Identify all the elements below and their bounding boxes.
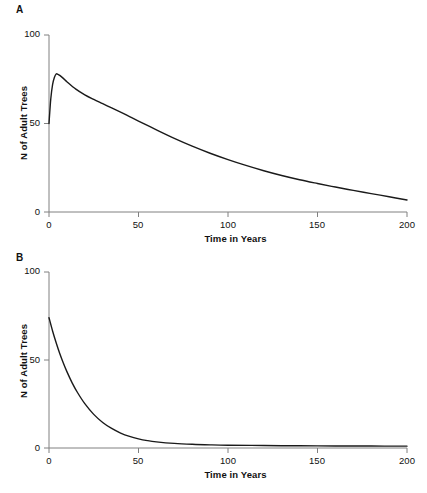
panel-b-xlabel-150: 150 — [302, 455, 332, 466]
panel-a-ylabel-0: 0 — [14, 206, 40, 217]
panel-a-xlabel-150: 150 — [302, 219, 332, 230]
panel-b-xlabel-0: 0 — [34, 455, 64, 466]
panel-b-xlabel-200: 200 — [392, 455, 422, 466]
panel-a-xlabel-0: 0 — [34, 219, 64, 230]
panel-a-data-curve — [49, 74, 407, 200]
panel-a-y-axis-title: N of Adult Trees — [18, 86, 29, 160]
panel-a-xlabel-50: 50 — [123, 219, 153, 230]
panel-b-ylabel-100: 100 — [14, 265, 40, 276]
panel-a-plot — [0, 0, 427, 248]
figure-two-panel-adult-trees: A 0 50 100 0 50 100 150 200 N of Ad — [0, 0, 427, 493]
panel-b-ylabel-0: 0 — [14, 442, 40, 453]
panel-a-xlabel-200: 200 — [392, 219, 422, 230]
panel-a-xlabel-100: 100 — [213, 219, 243, 230]
panel-b: B 0 50 100 0 50 100 150 200 N of Adult T… — [0, 248, 427, 493]
panel-b-x-axis-title: Time in Years — [22, 469, 427, 480]
panel-b-xlabel-100: 100 — [213, 455, 243, 466]
panel-b-data-curve — [49, 318, 407, 446]
panel-b-xlabel-50: 50 — [123, 455, 153, 466]
panel-a-ylabel-100: 100 — [14, 28, 40, 39]
panel-a-x-axis-title: Time in Years — [22, 233, 427, 244]
panel-a: A 0 50 100 0 50 100 150 200 N of Ad — [0, 0, 427, 248]
panel-b-y-axis-title: N of Adult Trees — [18, 324, 29, 398]
